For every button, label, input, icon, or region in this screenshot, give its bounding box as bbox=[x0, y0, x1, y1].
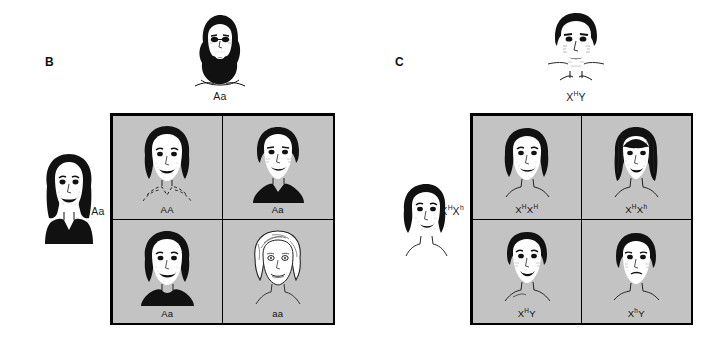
panel-b-cell-2-label: Aa bbox=[272, 205, 284, 215]
panel-c-punnett-grid: XHXH bbox=[470, 113, 693, 325]
panel-c-cell-3-label: XHY bbox=[518, 307, 536, 320]
panel-c-cell-2-allele1: X bbox=[625, 204, 632, 215]
panel-c-top-parent-allele1: X bbox=[566, 91, 573, 103]
panel-b-top-parent: Aa bbox=[178, 12, 262, 100]
panel-b-top-parent-label: Aa bbox=[178, 90, 262, 102]
panel-c-cell-2-sup2: h bbox=[643, 203, 647, 210]
panel-c-top-parent-allele2: Y bbox=[578, 91, 585, 103]
panel-b-cell-1-label: AA bbox=[161, 205, 174, 215]
panel-c-cell-4-label: XhY bbox=[628, 307, 645, 320]
girl-long-hair-face-icon bbox=[602, 123, 670, 199]
panel-c-cell-1-allele1: X bbox=[515, 204, 522, 215]
panel-b-cell-3-label: Aa bbox=[161, 309, 173, 319]
panel-c-top-parent-label: XHY bbox=[534, 90, 618, 103]
woman-face-icon bbox=[31, 148, 107, 246]
girl-face-icon bbox=[493, 123, 561, 199]
panel-c-cell-2: XHXh bbox=[581, 115, 692, 220]
panel-c-cell-1-label: XHXH bbox=[515, 203, 538, 216]
panel-c-top-parent: XHY bbox=[534, 10, 618, 101]
panel-letter-c: C bbox=[395, 55, 404, 69]
panel-c-left-parent-label: XHXh bbox=[432, 204, 472, 217]
girl-face-icon bbox=[132, 226, 202, 306]
boy-face-icon bbox=[603, 228, 669, 302]
panel-c-left-parent-allele1: X bbox=[440, 205, 447, 217]
woman-face-side-icon bbox=[393, 180, 457, 258]
panel-b-left-parent-label: Aa bbox=[86, 205, 110, 217]
panel-c-left-parent bbox=[390, 180, 460, 258]
panel-c-cell-4: XhY bbox=[581, 219, 692, 324]
panel-c-cell-1-sup2: H bbox=[533, 203, 538, 210]
boy-face-icon bbox=[243, 121, 313, 203]
panel-b-cell-4: aa bbox=[222, 219, 334, 324]
panel-c-cell-3: XHY bbox=[472, 219, 583, 324]
panel-b-left-parent bbox=[30, 148, 108, 246]
panel-c-cell-2-label: XHXh bbox=[625, 203, 647, 216]
albino-child-face-icon bbox=[242, 226, 314, 306]
panel-c-cell-4-allele2: Y bbox=[638, 308, 645, 319]
man-face-icon bbox=[538, 10, 614, 88]
panel-letter-b: B bbox=[45, 55, 54, 69]
panel-b-cell-4-label: aa bbox=[272, 309, 283, 319]
panel-b-punnett-grid: AA Aa bbox=[110, 113, 335, 325]
boy-face-icon bbox=[493, 227, 561, 303]
panel-c-cell-1: XHXH bbox=[472, 115, 583, 220]
bearded-man-face-icon bbox=[181, 12, 259, 88]
panel-b-cell-2: Aa bbox=[222, 115, 334, 220]
panel-c-left-parent-allele2: X bbox=[453, 205, 460, 217]
panel-b-cell-1: AA bbox=[112, 115, 224, 220]
panel-c-left-parent-sup2: h bbox=[460, 204, 464, 211]
punnett-square-figure: B bbox=[0, 0, 706, 344]
panel-b-cell-3: Aa bbox=[112, 219, 224, 324]
girl-face-icon bbox=[131, 121, 203, 203]
panel-c-cell-3-allele2: Y bbox=[529, 308, 536, 319]
